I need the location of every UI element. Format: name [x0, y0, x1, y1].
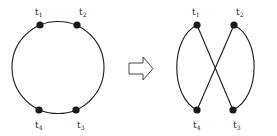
label-t4-right: t4: [193, 120, 201, 131]
label-t1-right: t1: [192, 7, 199, 18]
label-t3-left: t3: [77, 120, 85, 131]
node-t4-right: [193, 106, 200, 113]
node-t3-right: [229, 106, 236, 113]
diagram: t1 t2 t3 t4: [0, 0, 277, 136]
node-t3-left: [72, 106, 79, 113]
right-figure: t1 t2 t3 t4: [177, 7, 254, 131]
label-t2-left: t2: [79, 7, 87, 18]
node-t2-right: [230, 21, 237, 28]
node-t1-left: [36, 21, 43, 28]
label-t2-right: t2: [236, 7, 244, 18]
node-t4-left: [35, 106, 42, 113]
label-t3-right: t3: [233, 120, 241, 131]
label-t4-left: t4: [35, 120, 43, 131]
edge-t2-t3-arc: [233, 25, 254, 110]
label-t1-left: t1: [35, 7, 42, 18]
left-circle: [12, 22, 104, 114]
node-t1-right: [193, 21, 200, 28]
left-figure: t1 t2 t3 t4: [12, 7, 104, 131]
diagram-canvas: t1 t2 t3 t4: [0, 0, 277, 136]
node-t2-left: [73, 21, 80, 28]
transform-arrow-icon: [129, 57, 153, 80]
edge-t1-t4-arc: [177, 25, 197, 110]
